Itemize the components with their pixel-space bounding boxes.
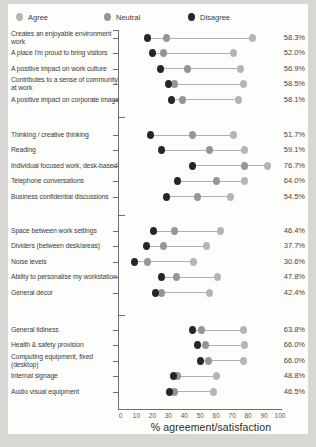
row-axis-tick xyxy=(113,69,118,70)
neutral-dot xyxy=(163,34,170,42)
value-label: 58.5% xyxy=(271,79,305,89)
disagree-dot xyxy=(143,242,150,250)
disagree-dot xyxy=(197,357,204,365)
agree-dot xyxy=(241,146,248,154)
neutral-dot xyxy=(194,193,201,201)
row-axis-tick xyxy=(113,84,118,85)
x-axis xyxy=(118,409,282,410)
page-background: Agree Neutral Disagree 01020304050607080… xyxy=(0,0,316,447)
neutral-dot xyxy=(213,177,220,185)
agree-dot xyxy=(217,227,224,235)
chart-area: 0102030405060708090100% agreement/satisf… xyxy=(8,4,308,434)
agree-dot xyxy=(190,258,197,266)
agree-dot xyxy=(210,388,217,396)
disagree-dot xyxy=(144,34,151,42)
row-axis-tick xyxy=(113,246,118,247)
value-label: 46.4% xyxy=(271,226,305,236)
value-label: 63.8% xyxy=(271,325,305,335)
row-connector-line xyxy=(168,84,243,85)
value-label: 66.0% xyxy=(271,356,305,366)
value-label: 51.7% xyxy=(271,130,305,140)
row-axis-tick xyxy=(113,197,118,198)
row-axis-tick xyxy=(113,277,118,278)
value-label: 48.8% xyxy=(271,371,305,381)
neutral-dot xyxy=(171,227,178,235)
row-axis-tick xyxy=(113,293,118,294)
group-divider-tick-2 xyxy=(118,215,125,216)
row-axis-tick xyxy=(113,376,118,377)
row-connector-line xyxy=(178,181,245,182)
value-label: 37.7% xyxy=(271,241,305,251)
disagree-dot xyxy=(165,80,172,88)
row-axis-tick xyxy=(113,361,118,362)
agree-dot xyxy=(241,177,248,185)
agree-dot xyxy=(230,49,237,57)
value-label: 52.0% xyxy=(271,48,305,58)
agree-dot xyxy=(237,65,244,73)
row-connector-line xyxy=(192,165,267,166)
row-axis-tick xyxy=(113,53,118,54)
disagree-dot xyxy=(149,49,156,57)
value-label: 66.0% xyxy=(271,340,305,350)
neutral-dot xyxy=(241,162,248,170)
disagree-dot xyxy=(170,372,177,380)
row-connector-line xyxy=(160,68,240,69)
group-divider-tick-1 xyxy=(118,117,125,118)
value-label: 58.1% xyxy=(271,95,305,105)
category-label: Audio visual equipment xyxy=(11,383,119,401)
disagree-dot xyxy=(158,273,165,281)
disagree-dot xyxy=(189,326,196,334)
row-axis-tick xyxy=(113,150,118,151)
value-label: 54.5% xyxy=(271,192,305,202)
category-label: Business confidential discussions xyxy=(11,188,119,206)
row-axis-tick xyxy=(113,262,118,263)
agree-dot xyxy=(264,162,271,170)
row-axis-tick xyxy=(113,38,118,39)
agree-dot xyxy=(241,341,248,349)
row-axis-tick xyxy=(113,392,118,393)
row-axis-tick xyxy=(113,231,118,232)
group-divider-tick-3 xyxy=(118,315,125,316)
disagree-dot xyxy=(131,258,138,266)
disagree-dot xyxy=(147,131,154,139)
agree-dot xyxy=(214,273,221,281)
row-connector-line xyxy=(154,231,221,232)
agree-dot xyxy=(203,242,210,250)
row-axis-tick xyxy=(113,135,118,136)
value-label: 42.4% xyxy=(271,288,305,298)
disagree-dot xyxy=(194,341,201,349)
disagree-dot xyxy=(168,96,175,104)
agree-dot xyxy=(240,357,247,365)
value-label: 46.5% xyxy=(271,387,305,397)
value-label: 30.6% xyxy=(271,257,305,267)
row-axis-tick xyxy=(113,345,118,346)
x-axis-tick-label: 100 xyxy=(271,412,289,420)
disagree-dot xyxy=(174,177,181,185)
disagree-dot xyxy=(163,193,170,201)
disagree-dot xyxy=(157,65,164,73)
agree-dot xyxy=(249,34,256,42)
row-connector-line xyxy=(162,277,218,278)
value-label: 58.3% xyxy=(271,33,305,43)
value-label: 64.0% xyxy=(271,176,305,186)
neutral-dot xyxy=(184,65,191,73)
value-label: 59.1% xyxy=(271,145,305,155)
row-axis-tick xyxy=(113,330,118,331)
row-axis-tick xyxy=(113,181,118,182)
disagree-dot xyxy=(150,227,157,235)
neutral-dot xyxy=(171,80,178,88)
neutral-dot xyxy=(198,326,205,334)
agree-dot xyxy=(235,96,242,104)
row-connector-line xyxy=(146,246,207,247)
disagree-dot xyxy=(158,146,165,154)
row-connector-line xyxy=(162,150,245,151)
agree-dot xyxy=(213,372,220,380)
disagree-dot xyxy=(152,289,159,297)
neutral-dot xyxy=(173,273,180,281)
row-axis-tick xyxy=(113,166,118,167)
row-axis-tick xyxy=(113,100,118,101)
neutral-dot xyxy=(160,242,167,250)
category-label: A positive impact on corporate image xyxy=(11,91,119,109)
value-label: 47.8% xyxy=(271,272,305,282)
neutral-dot xyxy=(160,49,167,57)
